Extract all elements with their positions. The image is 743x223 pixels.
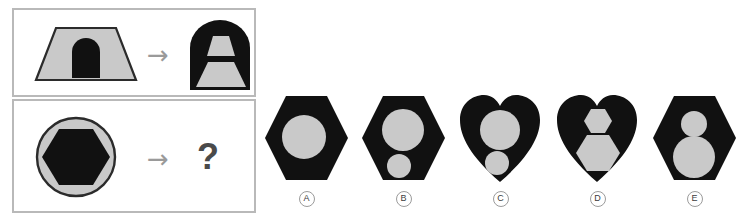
question-mark-placeholder: ? — [197, 139, 219, 175]
trapezoid-with-arch-icon — [32, 24, 140, 84]
heart-with-two-hexagons-icon — [549, 78, 646, 190]
answer-options-row: A B — [258, 78, 743, 223]
option-c-inner-circle-large — [480, 110, 520, 150]
answer-option-e-label-wrap: E — [646, 190, 743, 207]
example-arrow-icon: → — [147, 42, 169, 68]
answer-option-a-label: A — [299, 191, 315, 207]
question-arrow-icon: → — [147, 146, 169, 172]
answer-option-a-art[interactable] — [258, 78, 355, 190]
answer-option-e-label: E — [687, 191, 703, 207]
arch-with-trapezoids-icon — [187, 18, 253, 92]
answer-option-d-label-wrap: D — [549, 190, 646, 207]
answer-option-e[interactable]: E — [646, 78, 743, 223]
answer-option-b-label-wrap: B — [355, 190, 452, 207]
answer-option-c-art[interactable] — [452, 78, 549, 190]
puzzle-canvas: → → ? — [0, 0, 743, 223]
inner-arch-shape — [72, 38, 100, 78]
answer-option-c-label-wrap: C — [452, 190, 549, 207]
hexagon-with-one-circle-icon — [258, 78, 355, 190]
question-panel: → ? — [12, 99, 256, 213]
heart-with-two-circles-icon — [452, 78, 549, 190]
option-b-inner-circle-small — [387, 154, 411, 178]
example-result-figure — [187, 18, 253, 92]
circle-with-hexagon-icon — [34, 115, 118, 199]
answer-option-e-art[interactable] — [646, 78, 743, 190]
hexagon-with-small-and-large-circle-icon — [646, 78, 743, 190]
option-a-inner-circle-large — [282, 115, 326, 159]
answer-option-d-label: D — [590, 191, 606, 207]
example-panel: → — [12, 8, 256, 97]
answer-option-d[interactable]: D — [549, 78, 646, 223]
answer-option-a-label-wrap: A — [258, 190, 355, 207]
option-e-inner-circle-small — [681, 111, 707, 137]
question-source-figure — [34, 115, 118, 199]
answer-option-b-label: B — [396, 191, 412, 207]
option-e-inner-circle-large — [673, 136, 715, 178]
option-b-inner-circle-large — [382, 109, 424, 151]
answer-option-c-label: C — [493, 191, 509, 207]
answer-option-c[interactable]: C — [452, 78, 549, 223]
answer-option-b[interactable]: B — [355, 78, 452, 223]
hexagon-with-two-circles-icon — [355, 78, 452, 190]
option-c-inner-circle-small — [485, 151, 509, 175]
answer-option-d-art[interactable] — [549, 78, 646, 190]
answer-option-a[interactable]: A — [258, 78, 355, 223]
example-source-figure — [32, 24, 140, 84]
answer-option-b-art[interactable] — [355, 78, 452, 190]
